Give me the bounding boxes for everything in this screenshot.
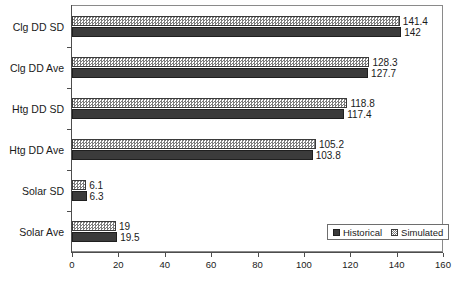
legend-entry: Simulated	[391, 227, 443, 238]
category-axis-tick	[67, 47, 72, 48]
value-axis-tick	[350, 253, 351, 257]
bar-simulated	[72, 57, 369, 68]
data-label-simulated: 141.4	[403, 16, 428, 27]
plot-area	[71, 5, 443, 252]
bar-historical	[72, 68, 368, 79]
bar-simulated	[72, 221, 116, 232]
value-axis-tick-label: 20	[113, 259, 124, 270]
category-label: Clg DD Ave	[0, 62, 64, 74]
category-label: Htg DD Ave	[0, 144, 64, 156]
bar-historical	[72, 150, 313, 161]
bar-simulated	[72, 98, 347, 109]
data-label-simulated: 19	[119, 221, 130, 232]
bar-simulated	[72, 180, 86, 191]
category-label: Solar Ave	[0, 226, 64, 238]
bar-historical	[72, 109, 344, 120]
data-label-historical: 6.3	[90, 191, 104, 202]
value-axis-tick-label: 0	[69, 259, 74, 270]
value-axis-tick	[165, 253, 166, 257]
value-axis-tick-label: 60	[206, 259, 217, 270]
category-label: Solar SD	[0, 185, 64, 197]
value-axis-tick	[258, 253, 259, 257]
value-axis-tick	[304, 253, 305, 257]
value-axis-tick-label: 100	[296, 259, 312, 270]
value-axis-tick-label: 160	[435, 259, 451, 270]
value-axis-tick	[443, 253, 444, 257]
data-label-simulated: 128.3	[372, 57, 397, 68]
checkered-square-icon	[391, 229, 398, 236]
bar-historical	[72, 232, 117, 243]
data-label-historical: 142	[404, 27, 421, 38]
chart-legend: HistoricalSimulated	[327, 224, 449, 240]
category-label: Htg DD SD	[0, 103, 64, 115]
data-label-simulated: 105.2	[319, 139, 344, 150]
value-axis-tick-label: 120	[342, 259, 358, 270]
data-label-historical: 127.7	[371, 68, 396, 79]
value-axis-tick-label: 80	[252, 259, 263, 270]
data-label-historical: 19.5	[120, 232, 139, 243]
category-axis-tick	[67, 129, 72, 130]
category-label: Clg DD SD	[0, 21, 64, 33]
data-label-historical: 103.8	[316, 150, 341, 161]
category-axis-tick	[67, 88, 72, 89]
category-axis-tick	[67, 170, 72, 171]
value-axis-tick	[211, 253, 212, 257]
value-axis-tick-label: 40	[159, 259, 170, 270]
value-axis-tick	[72, 253, 73, 257]
solid-dark-square-icon	[333, 229, 340, 236]
data-label-simulated: 118.8	[350, 98, 374, 109]
category-axis-tick	[67, 211, 72, 212]
data-label-simulated: 6.1	[89, 180, 103, 191]
value-axis-tick	[397, 253, 398, 257]
bar-historical	[72, 191, 87, 202]
value-axis-tick	[118, 253, 119, 257]
data-label-historical: 117.4	[347, 109, 371, 120]
legend-label: Historical	[343, 227, 382, 238]
value-axis-tick-label: 140	[389, 259, 405, 270]
legend-entry: Historical	[333, 227, 382, 238]
bar-simulated	[72, 16, 400, 27]
bar-simulated	[72, 139, 316, 150]
bar-historical	[72, 27, 401, 38]
legend-label: Simulated	[401, 227, 443, 238]
bar-chart: 020406080100120140160 Clg DD SDClg DD Av…	[0, 0, 461, 291]
